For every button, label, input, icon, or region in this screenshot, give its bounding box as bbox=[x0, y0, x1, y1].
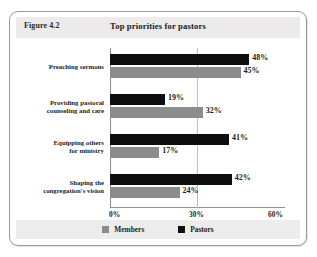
bar-value-members: 24% bbox=[183, 186, 199, 195]
category-label-line: Equipping others bbox=[54, 139, 104, 146]
bar-value-pastors: 41% bbox=[232, 133, 248, 142]
bar-value-members: 17% bbox=[162, 146, 178, 155]
bar-members bbox=[110, 147, 159, 158]
category-label: Equipping othersfor ministry bbox=[18, 139, 104, 156]
figure-card: Figure 4.2 Top priorities for pastors Pr… bbox=[9, 11, 307, 246]
category-label-line: Providing pastoral bbox=[50, 99, 104, 106]
x-tick-30pct: 30% bbox=[189, 210, 204, 219]
bar-pastors bbox=[110, 54, 249, 65]
category-axis-labels: Preaching sermonsProviding pastoralcouns… bbox=[16, 48, 104, 208]
category-label: Providing pastoralcounseling and care bbox=[18, 99, 104, 116]
bar-members bbox=[110, 187, 180, 198]
legend-label: Members bbox=[114, 225, 144, 234]
category-label-line: counseling and care bbox=[47, 107, 104, 114]
legend-item: Members bbox=[102, 225, 144, 234]
legend-swatch-pastors bbox=[178, 226, 185, 233]
legend-item: Pastors bbox=[178, 225, 213, 234]
legend-label: Pastors bbox=[190, 225, 213, 234]
category-label-line: Preaching sermons bbox=[49, 63, 104, 70]
bar-pastors bbox=[110, 174, 232, 185]
legend-items: MembersPastors bbox=[16, 220, 300, 239]
figure-page: Figure 4.2 Top priorities for pastors Pr… bbox=[0, 0, 317, 257]
plot-bars: 48%45%19%32%41%17%42%24% bbox=[110, 48, 284, 208]
figure-title: Top priorities for pastors bbox=[16, 21, 300, 31]
bar-members bbox=[110, 67, 241, 78]
category-label: Preaching sermons bbox=[18, 63, 104, 71]
bar-value-pastors: 19% bbox=[168, 93, 184, 102]
bar-value-members: 32% bbox=[206, 106, 222, 115]
bar-members bbox=[110, 107, 203, 118]
category-label-line: congregation's vision bbox=[43, 187, 104, 194]
chart-legend: MembersPastors bbox=[16, 220, 300, 239]
chart-area: Preaching sermonsProviding pastoralcouns… bbox=[16, 40, 300, 218]
x-tick-60pct: 60% bbox=[268, 210, 283, 219]
bar-value-members: 45% bbox=[244, 66, 260, 75]
category-label-line: Shaping the bbox=[69, 179, 104, 186]
bar-pastors bbox=[110, 94, 165, 105]
x-tick-0pct: 0% bbox=[109, 210, 120, 219]
figure-header: Figure 4.2 Top priorities for pastors bbox=[16, 17, 300, 38]
category-label: Shaping thecongregation's vision bbox=[18, 179, 104, 196]
category-label-line: for ministry bbox=[69, 147, 104, 154]
bar-pastors bbox=[110, 134, 229, 145]
bar-value-pastors: 48% bbox=[252, 53, 268, 62]
legend-swatch-members bbox=[102, 226, 109, 233]
bar-value-pastors: 42% bbox=[235, 173, 251, 182]
